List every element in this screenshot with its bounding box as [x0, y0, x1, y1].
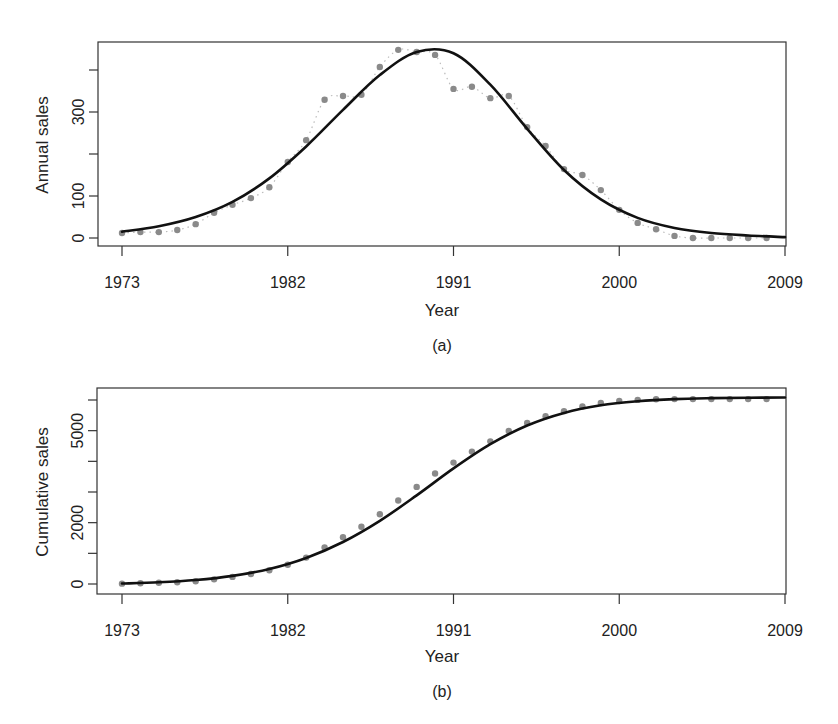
y-tick-label: 5000 — [69, 413, 86, 449]
y-tick-label: 100 — [70, 183, 87, 210]
data-point — [671, 233, 677, 239]
x-tick-label: 1973 — [104, 274, 140, 291]
x-tick-label: 2000 — [601, 622, 637, 639]
cumulative-sales-panel: 020005000 19731982199120002009 Cumulativ… — [33, 388, 803, 700]
data-point — [266, 184, 272, 190]
data-point — [395, 497, 401, 503]
y-tick-label: 300 — [70, 99, 87, 126]
data-point — [450, 459, 456, 465]
data-point — [156, 229, 162, 235]
data-point — [192, 221, 198, 227]
data-point — [248, 195, 254, 201]
data-point — [469, 84, 475, 90]
y-axis-title: Annual sales — [33, 96, 52, 193]
x-tick-label: 2009 — [767, 274, 803, 291]
series-layer — [119, 396, 785, 587]
data-point — [303, 137, 309, 143]
data-point — [321, 97, 327, 103]
data-point — [450, 86, 456, 92]
data-point — [174, 227, 180, 233]
y-tick-label: 0 — [70, 233, 87, 242]
data-point — [377, 511, 383, 517]
panel-label: (a) — [432, 337, 452, 354]
x-tick-label: 1982 — [270, 274, 306, 291]
data-point — [413, 484, 419, 490]
x-axis-title: Year — [425, 647, 460, 666]
data-point — [340, 534, 346, 540]
data-point — [340, 93, 346, 99]
data-point — [598, 187, 604, 193]
y-tick-label: 2000 — [69, 505, 86, 541]
data-point — [395, 47, 401, 53]
y-tick-label: 0 — [69, 579, 86, 588]
panel-label: (b) — [432, 683, 452, 700]
data-point — [690, 235, 696, 241]
x-tick-label: 1991 — [436, 622, 472, 639]
data-point — [432, 52, 438, 58]
x-tick-label: 1982 — [270, 622, 306, 639]
y-axis-ticks: 020005000 — [69, 400, 97, 588]
y-axis-title: Cumulative sales — [33, 427, 52, 556]
x-axis-title: Year — [425, 301, 460, 320]
chart-canvas: 0100300 19731982199120002009 Annual sale… — [0, 0, 838, 724]
x-tick-label: 1991 — [436, 274, 472, 291]
x-tick-label: 1973 — [104, 622, 140, 639]
data-point — [708, 235, 714, 241]
fitted-curve — [122, 398, 785, 584]
y-axis-ticks: 0100300 — [70, 70, 98, 242]
data-point — [358, 523, 364, 529]
data-point — [506, 93, 512, 99]
data-point — [579, 172, 585, 178]
x-tick-label: 2009 — [767, 622, 803, 639]
data-point — [487, 95, 493, 101]
data-point — [377, 64, 383, 70]
x-axis-ticks: 19731982199120002009 — [104, 246, 803, 291]
data-point — [432, 470, 438, 476]
plot-frame — [97, 388, 786, 594]
data-point — [634, 220, 640, 226]
x-axis-ticks: 19731982199120002009 — [104, 594, 803, 639]
x-tick-label: 2000 — [601, 274, 637, 291]
annual-sales-panel: 0100300 19731982199120002009 Annual sale… — [33, 42, 803, 354]
data-point — [653, 226, 659, 232]
series-layer — [119, 47, 785, 242]
